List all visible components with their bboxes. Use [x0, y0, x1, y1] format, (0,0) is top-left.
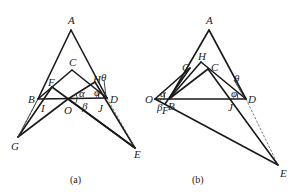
figure-b: A H G C θ φ O α β F B J D E (b) [145, 14, 287, 186]
label-O: O [145, 93, 153, 105]
label-G: G [11, 140, 19, 152]
label-alpha: α [79, 87, 85, 99]
edge-CB [169, 69, 208, 99]
label-F: F [47, 76, 55, 88]
label-theta: θ [101, 71, 107, 83]
edge-DE-dashed [246, 99, 278, 165]
edge-BD [38, 98, 107, 99]
label-A: A [67, 14, 75, 26]
label-E: E [279, 167, 287, 179]
label-C: C [211, 61, 219, 73]
label-B: B [168, 100, 175, 112]
edge-GF [18, 87, 52, 137]
label-theta: θ [234, 72, 240, 84]
label-D: D [247, 93, 256, 105]
label-H: H [197, 50, 207, 62]
label-O: O [64, 104, 72, 116]
edge-CB [38, 70, 72, 99]
label-B: B [28, 93, 35, 105]
angle-phi-arc [237, 93, 238, 99]
label-beta: β [81, 100, 88, 112]
label-phi: φ [94, 86, 100, 98]
edge-CE [208, 69, 278, 165]
geometry-figure: A C F H θ B D I O α β φ J G E (a) A H G [0, 0, 298, 196]
label-alpha: α [160, 87, 166, 99]
caption-b: (b) [192, 174, 204, 186]
label-J: J [98, 102, 104, 114]
label-phi: φ [231, 87, 237, 99]
label-E: E [133, 148, 141, 160]
label-A: A [205, 14, 213, 26]
label-D: D [109, 93, 118, 105]
figure-a: A C F H θ B D I O α β φ J G E (a) [11, 14, 141, 186]
edge-HE [95, 82, 135, 148]
edge-AD [71, 30, 107, 98]
label-G: G [182, 61, 190, 73]
label-C: C [69, 56, 77, 68]
edge-DE-dashed [107, 98, 135, 148]
label-I: I [40, 102, 46, 114]
caption-a: (a) [70, 174, 81, 186]
angle-beta-arc [75, 99, 77, 104]
